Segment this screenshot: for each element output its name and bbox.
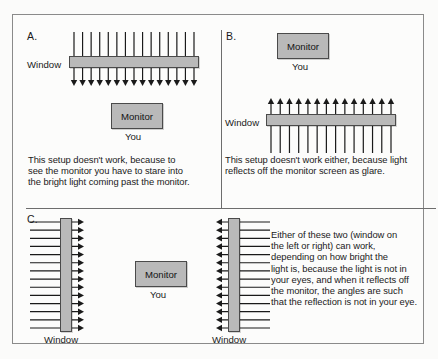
figure-frame: A. Window Monitor You This setup doesn't… [12,14,424,344]
panel-c-caption: Either of these two (window on the left … [271,229,431,307]
panel-c-you-label: You [150,289,166,300]
panel-c-left-window-bar [60,218,72,332]
panel-c-right-window-label: Window [212,334,246,345]
panel-c-right-window-bar [228,218,240,332]
panel-c-monitor: Monitor [135,261,187,287]
panel-c-left-window-label: Window [44,334,78,345]
figure-canvas: A. Window Monitor You This setup doesn't… [0,0,438,359]
